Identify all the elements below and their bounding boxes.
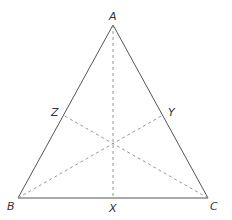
label-y: Y	[168, 106, 176, 119]
triangle-diagram: A B C X Y Z	[0, 0, 232, 220]
edge-ca	[113, 25, 208, 198]
median-cz	[63, 115, 208, 198]
median-by	[18, 115, 163, 198]
label-a: A	[108, 10, 117, 23]
label-x: X	[108, 202, 117, 215]
label-z: Z	[50, 106, 59, 119]
label-c: C	[210, 200, 218, 213]
edge-ab	[18, 25, 113, 198]
label-b: B	[7, 200, 15, 213]
medians	[18, 25, 208, 198]
triangle-svg: A B C X Y Z	[0, 0, 232, 220]
